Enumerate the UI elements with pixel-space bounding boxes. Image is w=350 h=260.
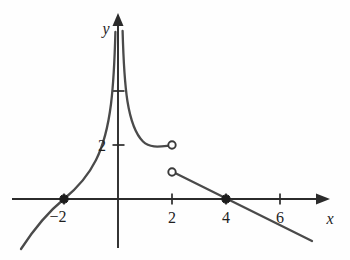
x-axis-arrow-icon bbox=[316, 194, 330, 205]
open-points-group bbox=[168, 141, 175, 175]
closed-point-at-x-4 bbox=[222, 195, 230, 203]
curve-right-branch bbox=[123, 31, 171, 147]
x-tick-label--2: −2 bbox=[49, 208, 66, 225]
x-tick-label-2: 2 bbox=[168, 209, 176, 226]
open-point-at-2-1 bbox=[168, 168, 175, 175]
y-tick-label-2: 2 bbox=[98, 137, 106, 154]
closed-point-at-x-minus-2 bbox=[60, 195, 68, 203]
x-axis-label: x bbox=[325, 210, 333, 227]
open-point-at-2-2 bbox=[168, 141, 175, 148]
function-plot: −2 2 4 6 2 y x bbox=[0, 0, 350, 260]
x-tick-label-4: 4 bbox=[222, 209, 230, 226]
y-axis-label: y bbox=[100, 20, 110, 38]
y-axis-arrow-icon bbox=[113, 13, 124, 26]
line-segment bbox=[175, 173, 313, 241]
x-tick-label-6: 6 bbox=[276, 209, 284, 226]
graph-figure: −2 2 4 6 2 y x bbox=[0, 0, 350, 260]
